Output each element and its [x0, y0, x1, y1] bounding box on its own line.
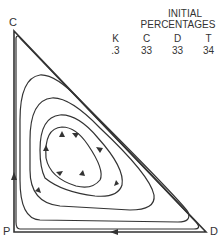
vertex-label-d: D [210, 226, 218, 237]
column-header: D [162, 33, 193, 45]
table-cell: 33 [131, 45, 162, 57]
header-percentages: PERCENTAGES [132, 19, 224, 30]
vertex-label-c: C [9, 17, 17, 28]
table-value-row: .3 33 33 34 [100, 45, 224, 57]
column-header: K [100, 33, 131, 45]
vertex-label-p: P [3, 226, 10, 237]
orbit-3 [30, 98, 154, 210]
orbit-5 [46, 127, 101, 187]
table-header-row: K C D T [100, 33, 224, 45]
arrow-icon [43, 145, 49, 151]
arrow-icon [72, 133, 79, 138]
orbit-4 [40, 115, 122, 196]
header-initial: INITIAL [150, 8, 220, 19]
table-cell: 33 [162, 45, 193, 57]
table-cell: 34 [193, 45, 224, 57]
arrow-icon [96, 147, 103, 153]
arrow-icon [110, 229, 118, 235]
arrow-icon [35, 187, 41, 193]
column-header: C [131, 33, 162, 45]
initial-percentages-table: K C D T .3 33 33 34 [100, 33, 224, 57]
column-header: T [193, 33, 224, 45]
arrow-icon [114, 180, 119, 186]
arrow-icon [59, 131, 65, 137]
arrow-icon [56, 171, 63, 176]
arrow-icon [79, 170, 85, 176]
table-cell: .3 [100, 45, 131, 57]
